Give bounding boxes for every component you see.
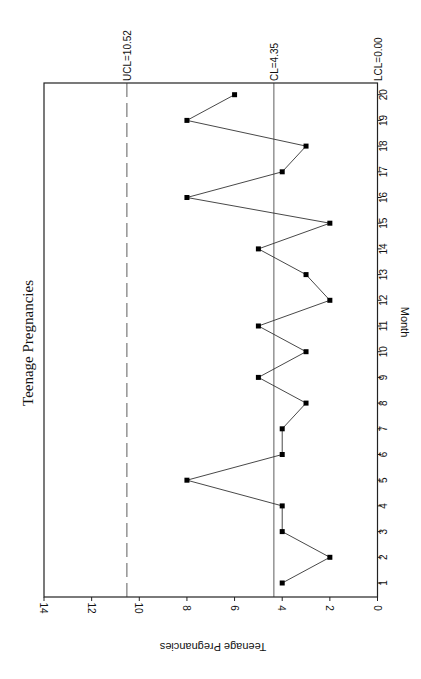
x-axis-label: Month [399, 307, 411, 338]
value-tick-label: 0 [372, 605, 383, 611]
month-tick-label: 2 [378, 554, 389, 560]
data-point-marker [232, 92, 237, 97]
data-point-marker [280, 452, 285, 457]
month-tick-label: 10 [378, 346, 389, 358]
data-point-marker [184, 478, 189, 483]
data-point-marker [280, 581, 285, 586]
value-tick-label: 14 [38, 602, 49, 614]
month-tick-label: 20 [378, 89, 389, 101]
cl-label: CL=4.35 [269, 42, 280, 81]
month-tick-label: 9 [378, 374, 389, 380]
month-tick-label: 14 [378, 243, 389, 255]
month-axis: 1234567891011121314151617181920 [378, 89, 389, 586]
chart-title: Teenage Pregnancies [20, 280, 36, 406]
month-tick-label: 13 [378, 269, 389, 281]
month-tick-label: 3 [378, 528, 389, 534]
data-point-marker [184, 118, 189, 123]
data-point-marker [256, 375, 261, 380]
data-point-marker [280, 529, 285, 534]
month-tick-label: 7 [378, 426, 389, 432]
data-point-marker [304, 272, 309, 277]
y-axis-label: Teenage Pregnancies [159, 641, 266, 653]
month-tick-label: 16 [378, 192, 389, 204]
plot-frame [44, 83, 378, 597]
month-tick-label: 18 [378, 140, 389, 152]
data-point-marker [280, 426, 285, 431]
data-point-marker [304, 144, 309, 149]
month-tick-label: 11 [378, 320, 389, 331]
data-point-marker [256, 246, 261, 251]
month-tick-label: 4 [378, 503, 389, 509]
series-line [187, 95, 330, 583]
data-point-marker [327, 298, 332, 303]
month-tick-label: 8 [378, 400, 389, 406]
value-tick-label: 12 [86, 602, 97, 614]
data-point-marker [327, 555, 332, 560]
data-point-marker [304, 349, 309, 354]
data-point-marker [184, 195, 189, 200]
value-axis: 02468101214 [38, 597, 383, 614]
month-tick-label: 1 [378, 580, 389, 586]
month-tick-label: 6 [378, 451, 389, 457]
month-tick-label: 15 [378, 217, 389, 229]
data-point-marker [256, 324, 261, 329]
value-tick-label: 2 [324, 605, 335, 611]
value-tick-label: 8 [181, 605, 192, 611]
data-point-marker [280, 503, 285, 508]
control-chart: Teenage Pregnancies UCL=10.52CL=4.35LCL=… [0, 0, 421, 679]
control-lines: UCL=10.52CL=4.35LCL=0.00 [122, 30, 384, 597]
data-point-marker [304, 401, 309, 406]
lcl-label: LCL=0.00 [373, 37, 384, 81]
month-tick-label: 12 [378, 294, 389, 306]
data-series [184, 92, 332, 585]
value-tick-label: 6 [229, 605, 240, 611]
value-tick-label: 10 [133, 602, 144, 614]
month-tick-label: 5 [378, 477, 389, 483]
ucl-label: UCL=10.52 [122, 30, 133, 81]
month-tick-label: 19 [378, 114, 389, 126]
data-point-marker [327, 221, 332, 226]
data-point-marker [280, 169, 285, 174]
month-tick-label: 17 [378, 166, 389, 178]
value-tick-label: 4 [276, 605, 287, 611]
